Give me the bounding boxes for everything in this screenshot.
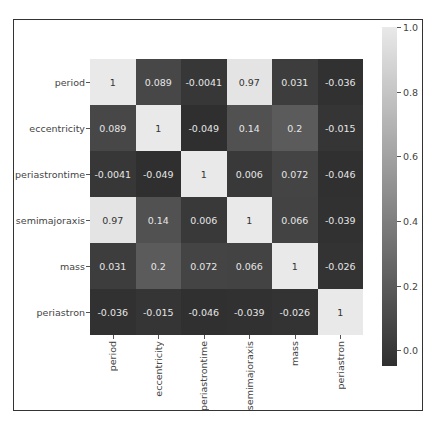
- x-tick-label: semimajoraxis: [244, 341, 255, 410]
- colorbar-tick-label: 0.4: [403, 215, 418, 226]
- heatmap-cell: 0.97: [90, 197, 136, 243]
- x-tick-label-wrap: periastrontime: [197, 341, 211, 411]
- heatmap-cell: 1: [136, 105, 182, 151]
- x-tick-label: periastrontime: [198, 341, 209, 411]
- y-tick-label: periastrontime: [15, 169, 85, 180]
- heatmap-cell: 0.14: [227, 105, 273, 151]
- x-tick-label-wrap: periastron: [333, 341, 347, 389]
- heatmap-cell: -0.0041: [90, 151, 136, 197]
- x-tick-mark: [204, 335, 205, 339]
- x-tick-mark: [113, 335, 114, 339]
- heatmap-cell: -0.026: [318, 243, 364, 289]
- colorbar-tick-mark: [397, 156, 401, 157]
- x-tick-label: periastron: [335, 341, 346, 389]
- x-tick-mark: [340, 335, 341, 339]
- heatmap-cell: 1: [272, 243, 318, 289]
- x-tick-mark: [249, 335, 250, 339]
- heatmap-cell: -0.039: [227, 289, 273, 335]
- x-tick-label: mass: [289, 341, 300, 366]
- y-tick-label: mass: [60, 261, 85, 272]
- colorbar-tick-label: 0.0: [403, 345, 418, 356]
- x-tick-label-wrap: mass: [288, 341, 302, 366]
- heatmap-cell: 0.089: [136, 59, 182, 105]
- colorbar-tick-mark: [397, 286, 401, 287]
- heatmap-cell: -0.015: [136, 289, 182, 335]
- colorbar: [382, 27, 397, 366]
- heatmap-cell: 1: [90, 59, 136, 105]
- colorbar-tick-mark: [397, 27, 401, 28]
- y-tick-label: eccentricity: [29, 123, 85, 134]
- heatmap-cell: 0.2: [272, 105, 318, 151]
- heatmap-cell: -0.039: [318, 197, 364, 243]
- x-tick-label: period: [107, 341, 118, 371]
- y-tick-label: periastron: [37, 307, 85, 318]
- heatmap-cell: 1: [181, 151, 227, 197]
- x-tick-mark: [295, 335, 296, 339]
- heatmap-cell: 1: [227, 197, 273, 243]
- colorbar-tick-mark: [397, 92, 401, 93]
- colorbar-tick-label: 0.8: [403, 86, 418, 97]
- heatmap-cell: 0.006: [181, 197, 227, 243]
- x-tick-label-wrap: eccentricity: [151, 341, 165, 397]
- heatmap-cell: 0.066: [272, 197, 318, 243]
- heatmap-cell: -0.015: [318, 105, 364, 151]
- heatmap-cell: -0.036: [90, 289, 136, 335]
- correlation-heatmap: 10.089-0.00410.970.031-0.0360.0891-0.049…: [90, 59, 363, 335]
- heatmap-cell: 0.031: [272, 59, 318, 105]
- heatmap-cell: 0.031: [90, 243, 136, 289]
- x-tick-label: eccentricity: [153, 341, 164, 397]
- heatmap-cell: -0.0041: [181, 59, 227, 105]
- heatmap-cell: 0.089: [90, 105, 136, 151]
- x-tick-label-wrap: semimajoraxis: [242, 341, 256, 410]
- colorbar-tick-label: 0.2: [403, 280, 418, 291]
- colorbar-tick-label: 1.0: [403, 22, 418, 33]
- heatmap-cell: -0.046: [318, 151, 364, 197]
- y-tick-label: period: [55, 77, 85, 88]
- heatmap-cell: -0.049: [136, 151, 182, 197]
- heatmap-cell: -0.049: [181, 105, 227, 151]
- heatmap-cell: 0.2: [136, 243, 182, 289]
- heatmap-cell: 0.97: [227, 59, 273, 105]
- colorbar-tick-mark: [397, 221, 401, 222]
- colorbar-tick-label: 0.6: [403, 151, 418, 162]
- heatmap-cell: -0.026: [272, 289, 318, 335]
- heatmap-cell: 0.072: [181, 243, 227, 289]
- x-tick-mark: [158, 335, 159, 339]
- heatmap-cell: 0.072: [272, 151, 318, 197]
- heatmap-cell: 1: [318, 289, 364, 335]
- heatmap-cell: 0.14: [136, 197, 182, 243]
- colorbar-tick-mark: [397, 350, 401, 351]
- heatmap-cell: 0.066: [227, 243, 273, 289]
- x-tick-label-wrap: period: [106, 341, 120, 371]
- y-tick-label: semimajoraxis: [16, 215, 85, 226]
- heatmap-cell: -0.046: [181, 289, 227, 335]
- heatmap-cell: -0.036: [318, 59, 364, 105]
- heatmap-cell: 0.006: [227, 151, 273, 197]
